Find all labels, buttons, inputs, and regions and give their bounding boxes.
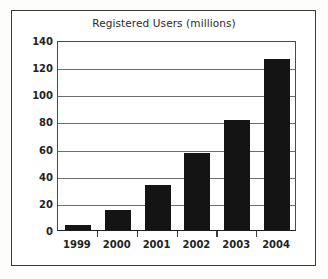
- x-axis-tick-label: 2004: [262, 239, 290, 250]
- chart-figure: Registered Users (millions) 020406080100…: [0, 0, 328, 279]
- bar-2002: [184, 153, 210, 230]
- y-axis-tick-label: 20: [7, 198, 53, 209]
- bar-slot: [98, 42, 138, 230]
- plot-area: [57, 41, 296, 231]
- x-axis-label-group: 199920002001200220032004: [57, 239, 296, 255]
- y-axis-tick-label: 120: [7, 63, 53, 74]
- x-axis-tick: [137, 231, 138, 237]
- y-axis-tick-label: 40: [7, 171, 53, 182]
- bar-2004: [264, 59, 290, 230]
- bar-slot: [257, 42, 297, 230]
- x-axis-tick: [97, 231, 98, 237]
- bar-2001: [145, 185, 171, 230]
- y-axis-tick-label: 60: [7, 144, 53, 155]
- bar-2003: [224, 120, 250, 230]
- x-axis-tick-label: 2003: [222, 239, 250, 250]
- bar-slot: [138, 42, 178, 230]
- bar-group: [58, 42, 295, 230]
- y-axis-tick-label: 80: [7, 117, 53, 128]
- y-axis-tick-label: 0: [7, 226, 53, 237]
- x-axis-tick-label: 2001: [143, 239, 171, 250]
- x-axis-tick-label: 2000: [103, 239, 131, 250]
- x-axis-tick: [256, 231, 257, 237]
- chart-title: Registered Users (millions): [0, 17, 328, 29]
- x-axis-tick: [216, 231, 217, 237]
- bar-slot: [178, 42, 218, 230]
- x-axis-tick: [177, 231, 178, 237]
- bar-slot: [217, 42, 257, 230]
- bar-slot: [58, 42, 98, 230]
- bar-2000: [105, 210, 131, 230]
- x-axis-tick-label: 1999: [63, 239, 91, 250]
- y-axis-tick-label: 140: [7, 36, 53, 47]
- y-axis-tick-label: 100: [7, 90, 53, 101]
- bar-1999: [65, 225, 91, 230]
- y-axis-label-group: 020406080100120140: [3, 41, 53, 231]
- x-axis-tick-label: 2002: [182, 239, 210, 250]
